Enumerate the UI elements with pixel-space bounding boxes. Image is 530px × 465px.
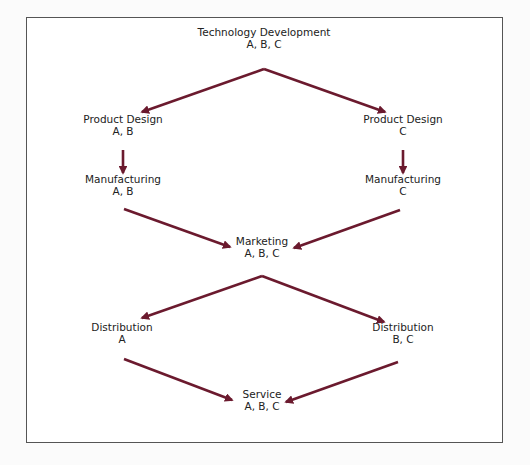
node-sub: A, B (83, 125, 162, 137)
node-label: Product Design (363, 113, 442, 125)
node-sub: C (363, 125, 442, 137)
node-sub: B, C (372, 333, 433, 345)
arrow-tech-to-pd_ab (142, 69, 264, 112)
node-pd_c: Product DesignC (363, 113, 442, 137)
node-label: Distribution (372, 321, 433, 333)
arrow-mf_ab-to-mkt (124, 209, 230, 247)
node-label: Technology Development (198, 26, 331, 38)
node-sub: A, B, C (236, 247, 288, 259)
node-tech: Technology DevelopmentA, B, C (198, 26, 331, 50)
node-pd_ab: Product DesignA, B (83, 113, 162, 137)
node-sub: A, B, C (198, 38, 331, 50)
arrow-dist_a-to-svc (124, 359, 232, 400)
arrow-mf_c-to-mkt (294, 210, 400, 248)
node-mf_ab: ManufacturingA, B (85, 173, 161, 197)
node-dist_a: DistributionA (91, 321, 152, 345)
node-dist_bc: DistributionB, C (372, 321, 433, 345)
node-label: Product Design (83, 113, 162, 125)
node-sub: A, B (85, 185, 161, 197)
node-sub: C (365, 185, 441, 197)
node-label: Manufacturing (85, 173, 161, 185)
arrow-dist_bc-to-svc (286, 362, 398, 402)
node-sub: A, B, C (243, 400, 282, 412)
node-sub: A (91, 333, 152, 345)
node-mf_c: ManufacturingC (365, 173, 441, 197)
node-label: Service (243, 388, 282, 400)
node-label: Marketing (236, 235, 288, 247)
node-label: Distribution (91, 321, 152, 333)
node-label: Manufacturing (365, 173, 441, 185)
node-mkt: MarketingA, B, C (236, 235, 288, 259)
arrow-tech-to-pd_c (264, 69, 385, 112)
arrow-mkt-to-dist_bc (262, 276, 384, 322)
arrow-mkt-to-dist_a (142, 276, 262, 318)
node-svc: ServiceA, B, C (243, 388, 282, 412)
